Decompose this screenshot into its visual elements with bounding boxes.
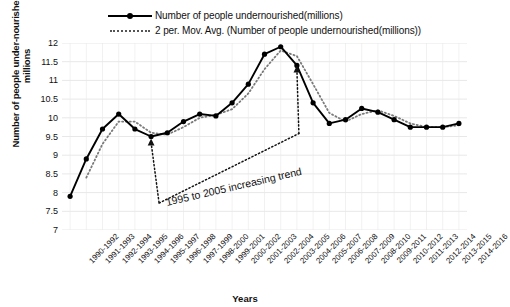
data-point-marker — [278, 44, 283, 49]
data-point-marker — [116, 111, 121, 116]
y-axis-tick: 7.5 — [45, 206, 58, 216]
data-point-marker — [197, 111, 202, 116]
data-point-marker — [165, 130, 170, 135]
y-axis-tick: 9.5 — [45, 132, 58, 142]
data-point-marker — [375, 110, 380, 115]
y-axis-tick: 8.5 — [45, 169, 58, 179]
y-axis-tick: 11.5 — [41, 57, 58, 67]
data-point-marker — [456, 121, 461, 126]
data-point-marker — [343, 117, 348, 122]
plot-svg — [62, 43, 467, 230]
data-point-marker — [246, 82, 251, 87]
legend-label-undernourished: Number of people undernourished(millions… — [155, 10, 343, 21]
legend-label-moving-average: 2 per. Mov. Avg. (Number of people under… — [155, 25, 421, 36]
data-point-marker — [262, 52, 267, 57]
data-point-marker — [84, 156, 89, 161]
chart-legend: Number of people undernourished(millions… — [108, 8, 468, 38]
y-axis-tick: 9 — [53, 150, 58, 160]
legend-item-moving-average: 2 per. Mov. Avg. (Number of people under… — [108, 23, 468, 38]
y-axis-tick: 11 — [49, 75, 58, 85]
data-point-marker — [440, 125, 445, 130]
solid-line-marker-key-icon — [108, 10, 152, 22]
data-point-marker — [230, 100, 235, 105]
legend-item-undernourished: Number of people undernourished(millions… — [108, 8, 468, 23]
data-point-marker — [311, 100, 316, 105]
y-axis-tick-labels: 77.588.599.51010.51111.512 — [22, 43, 58, 230]
data-point-marker — [181, 119, 186, 124]
x-axis-title: Years — [0, 293, 490, 304]
y-axis-tick: 10 — [48, 113, 58, 123]
data-point-marker — [100, 126, 105, 131]
y-axis-tick: 7 — [53, 225, 58, 235]
data-point-marker — [424, 125, 429, 130]
data-point-marker — [392, 117, 397, 122]
grid-lines — [62, 43, 467, 230]
data-point-marker — [359, 106, 364, 111]
arrow-head-start — [148, 139, 155, 146]
y-axis-tick: 12 — [48, 38, 58, 48]
data-point-marker — [68, 194, 73, 199]
dotted-line-key-icon — [108, 25, 152, 37]
data-point-marker — [213, 113, 218, 118]
y-axis-tick: 8 — [53, 188, 58, 198]
data-point-marker — [327, 121, 332, 126]
data-point-marker — [132, 126, 137, 131]
data-point-marker — [149, 134, 154, 139]
x-axis-tick-labels: 1990-19921991-19931992-19941993-19951994… — [62, 232, 467, 294]
data-point-marker — [408, 125, 413, 130]
y-axis-tick: 10.5 — [40, 94, 58, 104]
series-moving-average-line — [86, 50, 459, 177]
plot-area — [62, 43, 467, 230]
